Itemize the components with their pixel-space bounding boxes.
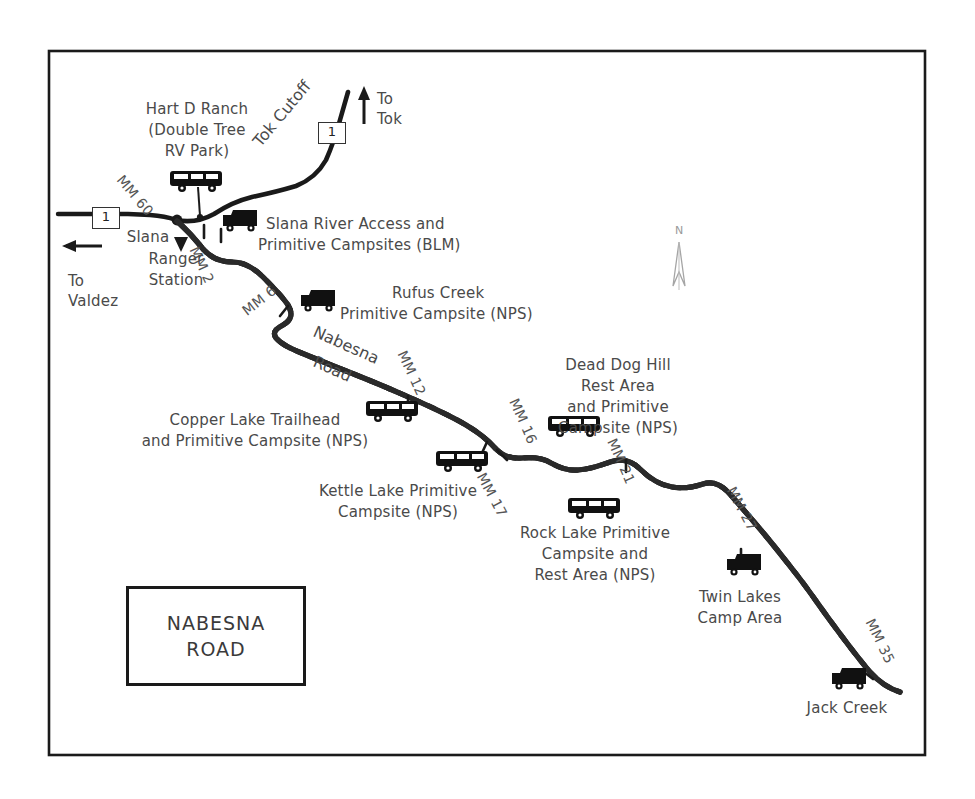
to-valdez-label-line1: To [68,272,84,291]
slana-river-access-label-line1: Slana River Access and [266,215,445,234]
to-valdez-label-line2: Valdez [68,292,118,311]
rufus-creek-label-line1: Rufus Creek [392,284,484,303]
copper-lake-label-line1: Copper Lake Trailhead [140,411,370,430]
twin-lakes-label-line1: Twin Lakes [675,588,805,607]
rufus-creek-label-line2: Primitive Campsite (NPS) [340,305,533,324]
north-arrow-label: N [675,224,683,237]
dead-dog-hill-label-line4: Campsite (NPS) [528,419,708,438]
slana-river-access-label-line2: Primitive Campsites (BLM) [258,236,461,255]
rock-lake-label-line1: Rock Lake Primitive [500,524,690,543]
twin-lakes-label-line2: Camp Area [675,609,805,628]
slana-ranger-station-label-line3: Station [136,271,216,290]
highway-shield-1-west: 1 [92,207,120,229]
rock-lake-label-line3: Rest Area (NPS) [500,566,690,585]
highway-shield-1-north: 1 [318,122,346,144]
jack-creek-label: Jack Creek [782,699,912,718]
to-tok-label-line2: Tok [377,110,402,129]
copper-lake-label-line2: and Primitive Campsite (NPS) [130,432,380,451]
rock-lake-label-line2: Campsite and [500,545,690,564]
to-tok-label-line1: To [377,90,393,109]
map-title-box: NABESNA ROAD [126,586,306,686]
kettle-lake-label-line2: Campsite (NPS) [308,503,488,522]
hart-d-ranch-label-line2: (Double Tree [122,121,272,140]
dead-dog-hill-label-line2: Rest Area [528,377,708,396]
map-title-line2: ROAD [167,636,266,662]
map-title-line1: NABESNA [167,610,266,636]
dead-dog-hill-label-line3: and Primitive [528,398,708,417]
hart-d-ranch-label-line1: Hart D Ranch [122,100,272,119]
nabesna-road-map: 1 1 To Tok To Valdez Tok Cutoff Nabesna … [0,0,975,799]
hart-d-ranch-node [197,214,203,220]
dead-dog-hill-label-line1: Dead Dog Hill [528,356,708,375]
hart-d-ranch-label-line3: RV Park) [122,142,272,161]
kettle-lake-label-line1: Kettle Lake Primitive [308,482,488,501]
slana-ranger-station-label-line1: Slana [108,228,188,247]
slana-ranger-station-label-line2: Ranger [136,250,216,269]
